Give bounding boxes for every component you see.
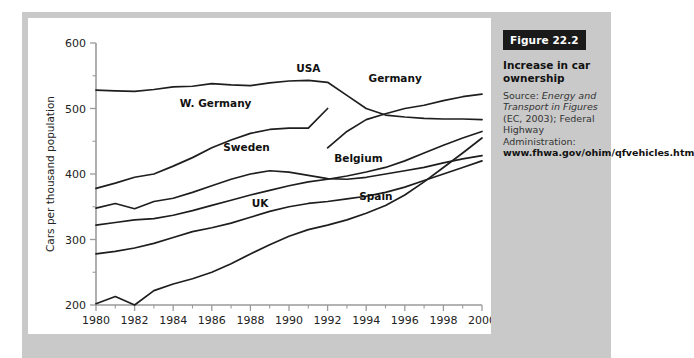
- y-tick-label-400: 400: [65, 168, 86, 181]
- x-tick-label-1992: 1992: [314, 314, 342, 327]
- source-rest: (EC, 2003); Federal Highway Administrati…: [503, 113, 595, 147]
- series-label-uk: UK: [252, 197, 270, 209]
- x-tick-label-1990: 1990: [275, 314, 303, 327]
- figure-number-badge: Figure 22.2: [503, 30, 586, 50]
- x-tick-label-1988: 1988: [236, 314, 264, 327]
- y-tick-label-200: 200: [65, 299, 86, 312]
- source-prefix: Source:: [503, 90, 542, 101]
- line-chart: 2003004005006001980198219841986198819901…: [28, 18, 491, 334]
- series-label-belgium: Belgium: [334, 152, 382, 164]
- series-label-sweden: Sweden: [223, 141, 270, 153]
- x-tick-label-1998: 1998: [429, 314, 457, 327]
- series-line-spain: [96, 138, 482, 305]
- x-tick-label-1980: 1980: [82, 314, 110, 327]
- source-url-line1[interactable]: www.fhwa.gov/: [503, 147, 585, 158]
- y-tick-label-600: 600: [65, 37, 86, 50]
- series-line-w-germany: [96, 109, 328, 189]
- series-line-usa: [96, 80, 482, 119]
- series-label-spain: Spain: [359, 190, 392, 202]
- figure-title: Increase in car ownership: [503, 59, 607, 84]
- source-url-line2[interactable]: ohim/qfvehicles.htm: [585, 147, 694, 158]
- series-label-usa: USA: [296, 62, 321, 74]
- x-tick-label-1996: 1996: [391, 314, 419, 327]
- y-tick-label-500: 500: [65, 103, 86, 116]
- y-tick-label-300: 300: [65, 234, 86, 247]
- x-tick-label-2000: 2000: [468, 314, 491, 327]
- x-tick-label-1982: 1982: [121, 314, 149, 327]
- series-label-germany: Germany: [369, 72, 422, 84]
- y-axis-title: Cars per thousand population: [44, 96, 56, 252]
- x-tick-label-1986: 1986: [198, 314, 226, 327]
- x-tick-label-1994: 1994: [352, 314, 380, 327]
- series-line-belgium: [96, 131, 482, 225]
- figure-source: Source: Energy and Transport in Figures …: [503, 90, 611, 158]
- x-tick-label-1984: 1984: [159, 314, 187, 327]
- series-label-w-germany: W. Germany: [180, 97, 252, 109]
